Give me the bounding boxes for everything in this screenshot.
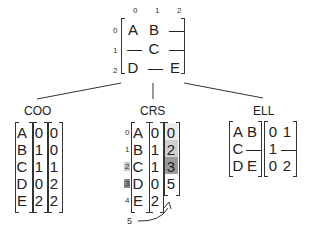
col-index: 2: [177, 6, 181, 15]
ell-index: 2: [281, 158, 293, 173]
matrix-cell: E: [169, 60, 181, 75]
coo-row: 1: [33, 142, 45, 157]
crs-index: 1: [125, 145, 129, 154]
left-bracket: [121, 18, 125, 74]
matrix-cell: —: [127, 41, 139, 56]
ell-value: E: [246, 158, 258, 173]
row-index: 0: [113, 26, 117, 35]
ell-index: 1: [281, 124, 293, 139]
crs-title: CRS: [140, 104, 165, 118]
crs-col-idx: 0: [149, 176, 161, 191]
matrix-cell: —: [148, 60, 160, 75]
coo-col: 2: [48, 193, 60, 208]
col-index: 1: [155, 6, 159, 15]
coo-value: A: [16, 125, 28, 140]
ell-value: D: [232, 158, 244, 173]
crs-value: B: [132, 142, 144, 157]
ell-value: —: [246, 141, 258, 156]
crs-col-idx: 0: [149, 125, 161, 140]
coo-row: 0: [33, 125, 45, 140]
crs-value: A: [132, 125, 144, 140]
matrix-cell: A: [127, 22, 139, 37]
coo-row: 0: [33, 176, 45, 191]
matrix-cell: —: [169, 41, 181, 56]
crs-value: D: [132, 176, 144, 191]
col-index: 0: [133, 6, 137, 15]
row-index: 2: [113, 66, 117, 75]
coo-col: 0: [48, 125, 60, 140]
crs-col-idx: 1: [149, 142, 161, 157]
coo-value: E: [16, 193, 28, 208]
ell-value: C: [232, 141, 244, 156]
crs-value: C: [132, 159, 144, 174]
matrix-cell: D: [127, 60, 139, 75]
crs-index: 4: [125, 196, 129, 205]
row-index: 1: [113, 46, 117, 55]
ell-index: 1: [267, 141, 279, 156]
ell-index: 0: [267, 124, 279, 139]
coo-col: 2: [48, 176, 60, 191]
crs-row-ptr: 3: [165, 159, 177, 174]
coo-value: B: [16, 142, 28, 157]
matrix-cell: C: [148, 41, 160, 56]
coo-col: 1: [48, 159, 60, 174]
ell-title: ELL: [253, 104, 274, 118]
crs-end-label: 5: [127, 216, 132, 226]
coo-value: C: [16, 159, 28, 174]
crs-index: 0: [125, 128, 129, 137]
crs-row-ptr: 0: [165, 125, 177, 140]
coo-col: 0: [48, 142, 60, 157]
coo-row: 1: [33, 159, 45, 174]
crs-col-idx: 2: [149, 193, 161, 208]
coo-value: D: [16, 176, 28, 191]
crs-value: E: [132, 193, 144, 208]
crs-row-ptr: 5: [165, 176, 177, 191]
ell-index: —: [281, 141, 293, 156]
crs-index-highlight: 3: [124, 179, 130, 188]
coo-title: COO: [24, 104, 51, 118]
matrix-cell: B: [148, 22, 160, 37]
crs-index-highlight: 2: [124, 162, 130, 171]
coo-row: 2: [33, 193, 45, 208]
ell-value: A: [232, 124, 244, 139]
crs-row-ptr: 2: [165, 142, 177, 157]
matrix-cell: —: [169, 22, 181, 37]
crs-col-idx: 1: [149, 159, 161, 174]
ell-value: B: [246, 124, 258, 139]
ell-index: 0: [267, 158, 279, 173]
